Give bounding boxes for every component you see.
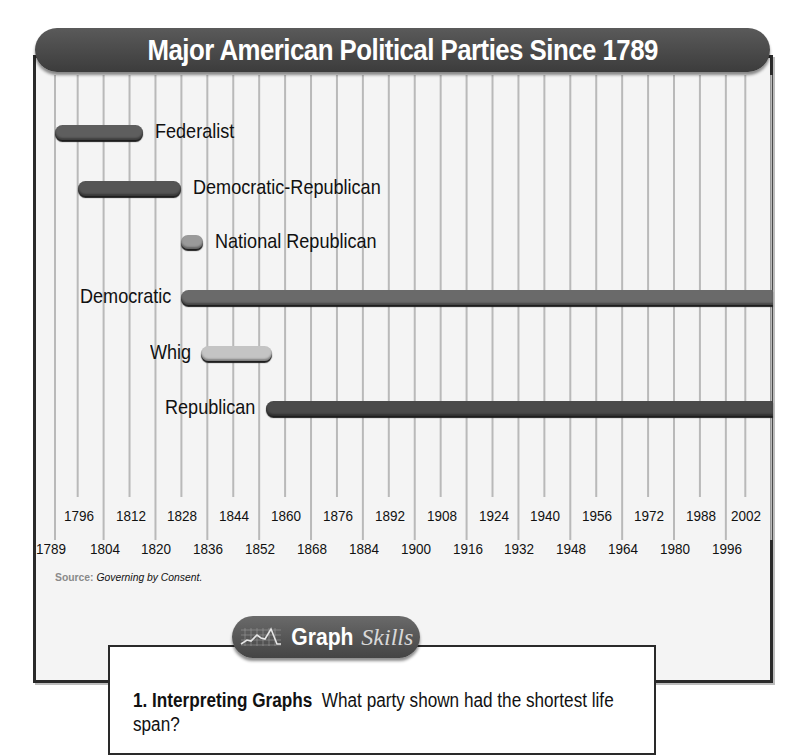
source-note: Source: Governing by Consent. xyxy=(55,571,202,583)
tick-label-1892: 1892 xyxy=(375,508,405,523)
tick-label-1876: 1876 xyxy=(323,508,353,523)
question-1: 1. Interpreting Graphs What party shown … xyxy=(133,688,653,736)
source-label: Source: xyxy=(55,571,94,583)
tick-label-1852: 1852 xyxy=(245,541,275,556)
line-graph-icon xyxy=(239,626,283,648)
label-federalist: Federalist xyxy=(155,120,234,141)
tick-label-1972: 1972 xyxy=(634,508,664,523)
tick-label-1820: 1820 xyxy=(141,541,171,556)
tick-label-1860: 1860 xyxy=(271,508,301,523)
tick-label-1964: 1964 xyxy=(608,541,638,556)
tick-label-1900: 1900 xyxy=(401,541,431,556)
graph-skills-title-bold: Graph xyxy=(291,623,353,651)
graph-skills-title-italic: Skills xyxy=(361,624,413,651)
chart-frame xyxy=(33,55,773,683)
label-republican: Republican xyxy=(165,396,255,417)
tick-label-1868: 1868 xyxy=(297,541,327,556)
tick-label-1956: 1956 xyxy=(582,508,612,523)
graph-skills-banner: Graph Skills xyxy=(232,616,420,658)
tick-label-1948: 1948 xyxy=(556,541,586,556)
tick-label-1988: 1988 xyxy=(686,508,716,523)
chart-title-banner: Major American Political Parties Since 1… xyxy=(35,28,770,72)
tick-label-2002: 2002 xyxy=(731,508,761,523)
bar-republican xyxy=(266,401,773,416)
tick-label-1940: 1940 xyxy=(530,508,560,523)
tick-label-1796: 1796 xyxy=(64,508,94,523)
tick-label-1844: 1844 xyxy=(219,508,249,523)
question-number: 1. xyxy=(133,689,147,711)
bar-democratic xyxy=(181,290,773,305)
label-whig: Whig xyxy=(150,341,191,362)
bar-whig xyxy=(201,346,272,361)
label-democratic-republican: Democratic-Republican xyxy=(193,176,381,197)
tick-label-1836: 1836 xyxy=(193,541,223,556)
tick-label-1789: 1789 xyxy=(36,541,66,556)
tick-label-1932: 1932 xyxy=(504,541,534,556)
tick-label-1828: 1828 xyxy=(167,508,197,523)
label-national-republican: National Republican xyxy=(215,230,377,251)
tick-label-1924: 1924 xyxy=(479,508,509,523)
tick-label-1916: 1916 xyxy=(453,541,483,556)
question-heading: Interpreting Graphs xyxy=(152,689,312,711)
bar-federalist xyxy=(55,125,143,140)
bar-democratic-republican xyxy=(78,181,182,196)
tick-label-1884: 1884 xyxy=(349,541,379,556)
bar-national-republican xyxy=(181,235,203,249)
chart-title: Major American Political Parties Since 1… xyxy=(147,33,657,67)
tick-label-1804: 1804 xyxy=(90,541,120,556)
tick-label-1980: 1980 xyxy=(660,541,690,556)
tick-label-1812: 1812 xyxy=(116,508,146,523)
tick-label-1996: 1996 xyxy=(712,541,742,556)
tick-label-1908: 1908 xyxy=(427,508,457,523)
label-democratic: Democratic xyxy=(80,285,171,306)
source-text: Governing by Consent. xyxy=(96,571,202,583)
